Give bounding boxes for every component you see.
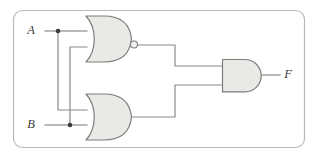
circuit-canvas: A B F xyxy=(0,0,318,159)
input-label-b: B xyxy=(27,117,35,131)
input-label-a: A xyxy=(26,23,35,37)
gate-and-1[interactable] xyxy=(223,60,262,92)
wire-a-branch-to-or-top-input xyxy=(58,31,87,110)
or-gate-body xyxy=(86,94,132,140)
junction-dot-b xyxy=(68,123,73,128)
wire-b-branch-to-nor-bottom-input xyxy=(70,47,87,125)
gate-nor-1[interactable] xyxy=(86,16,138,62)
logic-circuit-diagram: A B F xyxy=(0,0,318,159)
output-label-f: F xyxy=(283,67,292,81)
nor-inversion-bubble xyxy=(131,41,138,48)
wire-nor-output-to-and-top-input xyxy=(137,45,223,66)
junction-dot-a xyxy=(56,29,61,34)
gate-or-1[interactable] xyxy=(86,94,132,140)
nor-gate-body xyxy=(86,16,132,62)
wire-or-output-to-and-bottom-input xyxy=(131,85,223,117)
and-gate-body xyxy=(223,60,262,92)
